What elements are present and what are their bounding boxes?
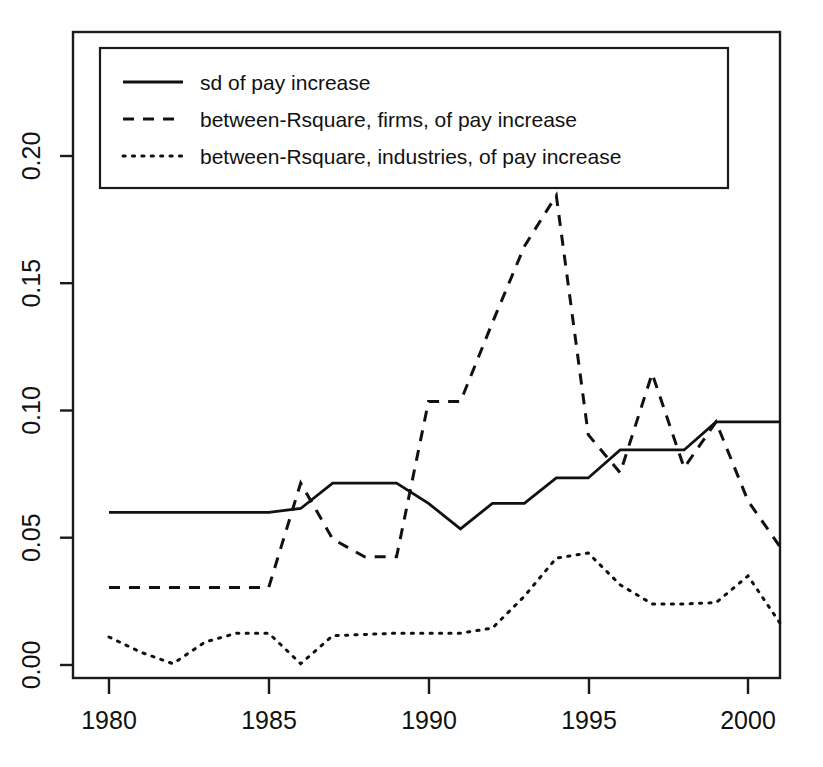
series-between-rsquare-industries	[109, 553, 780, 664]
y-tick-label-3: 0.15	[17, 259, 45, 308]
y-axis-tick-labels: 0.00 0.05 0.10 0.15 0.20	[17, 132, 45, 690]
legend-label-1: between-Rsquare, firms, of pay increase	[200, 108, 577, 131]
series-between-rsquare-firms	[109, 195, 780, 587]
series-sd-of-pay-increase	[109, 422, 780, 529]
y-tick-label-1: 0.05	[17, 513, 45, 562]
x-tick-label-4: 2000	[720, 706, 776, 734]
legend-label-0: sd of pay increase	[200, 71, 370, 94]
x-axis-tick-labels: 1980 1985 1990 1995 2000	[81, 706, 776, 734]
data-series-group	[109, 195, 780, 663]
line-chart-svg: 0.00 0.05 0.10 0.15 0.20 1980 1985 1990 …	[0, 0, 823, 767]
legend-label-2: between-Rsquare, industries, of pay incr…	[200, 145, 621, 168]
legend: sd of pay increase between-Rsquare, firm…	[100, 48, 728, 188]
y-axis-ticks	[60, 156, 73, 665]
x-tick-label-3: 1995	[561, 706, 617, 734]
y-tick-label-4: 0.20	[17, 132, 45, 181]
y-tick-label-2: 0.10	[17, 386, 45, 435]
x-tick-label-1: 1985	[241, 706, 297, 734]
x-tick-label-0: 1980	[81, 706, 137, 734]
chart-figure: 0.00 0.05 0.10 0.15 0.20 1980 1985 1990 …	[0, 0, 823, 767]
x-tick-label-2: 1990	[401, 706, 457, 734]
y-tick-label-0: 0.00	[17, 641, 45, 690]
x-axis-ticks	[109, 678, 748, 694]
